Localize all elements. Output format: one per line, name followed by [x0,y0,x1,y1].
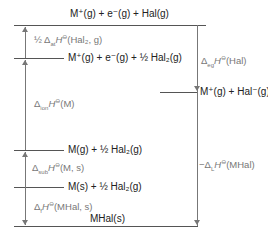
arrow-lattice-line [197,92,198,226]
level-label-top: M⁺(g) + e⁻(g) + Hal(g) [70,8,169,20]
step-label-formation: ΔfH⊖(MHal, s) [34,201,92,213]
level-label-4: M(s) + ½ Hal₂(g) [68,181,142,193]
step-label-ionisation: ΔionH⊖(M) [34,98,75,110]
arrow-down-icon [194,86,200,91]
level-label-2: M⁺(g) + e⁻(g) + ½ Hal₂(g) [68,52,182,64]
arrow-electron-gain-line [197,25,198,92]
arrow-up-icon [22,60,28,65]
level-label-right: M⁺(g) + Hal⁻(g) [200,86,268,98]
arrow-down-icon [22,220,28,225]
step-label-atomisation-hal: ½ ΔatH⊖(Hal₂, g) [34,34,102,46]
level-line-4 [14,187,64,188]
arrow-down-icon [194,220,200,225]
level-line-bottom [14,226,198,227]
level-line-2 [14,58,64,59]
level-line-top [14,25,206,26]
level-line-3 [14,150,64,151]
step-label-lattice: −ΔLH⊖(MHal) [199,159,255,171]
level-label-bottom: MHal(s) [90,213,125,225]
step-label-sublimation: ΔsubH⊖(M, s) [32,162,84,174]
arrow-sublimation-formation-line [25,152,26,225]
arrow-ionisation-line [25,60,26,150]
level-line-right [160,92,198,93]
step-label-electron-gain: ΔegH⊖(Hal) [201,55,247,67]
level-label-3: M(g) + ½ Hal₂(g) [68,144,142,156]
arrow-up-icon [22,152,28,157]
arrow-up-icon [22,27,28,32]
